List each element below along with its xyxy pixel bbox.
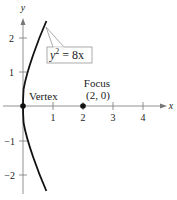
y-tick-label-1: 1 [9, 67, 14, 78]
x-tick-label-4: 4 [141, 112, 146, 123]
y-axis-arrow-icon [21, 18, 26, 25]
vertex-point [20, 103, 26, 109]
focus-point [80, 103, 86, 109]
x-tick-label-1: 1 [51, 112, 56, 123]
x-axis-arrow-icon [160, 104, 167, 109]
y-axis-label: y [20, 2, 26, 13]
x-axis-label: x [168, 100, 174, 111]
equation-label: y2 = 8x [49, 47, 84, 62]
x-tick-label-3: 3 [111, 112, 116, 123]
x-tick-label-2: 2 [81, 112, 86, 123]
focus-label: Focus [84, 77, 110, 89]
x-axis: 1 2 3 4 x [3, 100, 174, 123]
focus-coords-label: (2, 0) [86, 89, 110, 102]
y-tick-label-neg2: −2 [4, 170, 15, 181]
equation-callout-pointer [46, 27, 64, 47]
y-tick-label-2: 2 [9, 33, 14, 44]
vertex-label: Vertex [29, 90, 58, 102]
parabola-plot: 1 2 3 4 x 2 1 −1 −2 y y2 = 8x Ve [0, 0, 177, 200]
y-tick-label-neg1: −1 [4, 136, 15, 147]
parabola-figure: 1 2 3 4 x 2 1 −1 −2 y y2 = 8x Ve [0, 0, 177, 200]
